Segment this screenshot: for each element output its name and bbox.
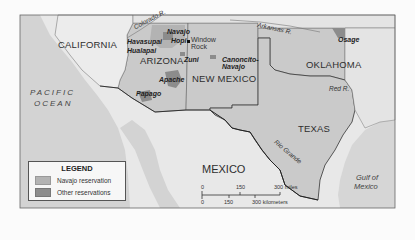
label-arizona: ARIZONA [140, 56, 184, 66]
legend-label-navajo: Navajo reservation [57, 177, 111, 184]
label-red-river: Red R. [329, 86, 349, 93]
label-navajo: Navajo [167, 28, 190, 35]
label-mexico-gulf: Mexico [354, 183, 378, 191]
map-legend: LEGEND Navajo reservation Other reservat… [28, 161, 126, 201]
label-canoncito-navajo: Canoncito-Navajo [222, 56, 270, 70]
label-hualapai: Hualapai [127, 47, 156, 54]
label-havasupai: Havasupai [127, 38, 162, 45]
scale-km-150: 150 [224, 199, 233, 205]
legend-label-other: Other reservations [57, 189, 110, 196]
label-apache: Apache [159, 76, 184, 83]
legend-item-other: Other reservations [35, 188, 110, 196]
scale-km-300: 300 kilometers [252, 199, 288, 205]
scale-bar: 0 150 300 miles 0 150 300 kilometers [200, 184, 310, 208]
legend-title: LEGEND [29, 164, 125, 173]
canoncito-reservation-area [210, 55, 216, 59]
label-window-rock: Window Rock [191, 36, 221, 50]
label-texas: TEXAS [298, 124, 330, 134]
legend-swatch-navajo [35, 176, 51, 185]
legend-swatch-other [35, 188, 51, 197]
label-gulf-of: Gulf of [356, 174, 378, 182]
window-rock-marker [187, 40, 190, 43]
label-mexico: MEXICO [202, 164, 245, 175]
label-ocean: OCEAN [34, 100, 72, 108]
legend-item-navajo: Navajo reservation [35, 176, 111, 184]
label-california: CALIFORNIA [58, 40, 117, 50]
label-hopi: Hopi [171, 37, 187, 44]
label-pacific: PACIFIC [30, 89, 75, 97]
label-new-mexico: NEW MEXICO [192, 74, 256, 84]
label-oklahoma: OKLAHOMA [306, 60, 361, 70]
label-zuni: Zuni [184, 56, 199, 63]
scale-km-0: 0 [201, 199, 204, 205]
label-papago: Papago [136, 90, 161, 97]
label-osage: Osage [338, 36, 359, 43]
